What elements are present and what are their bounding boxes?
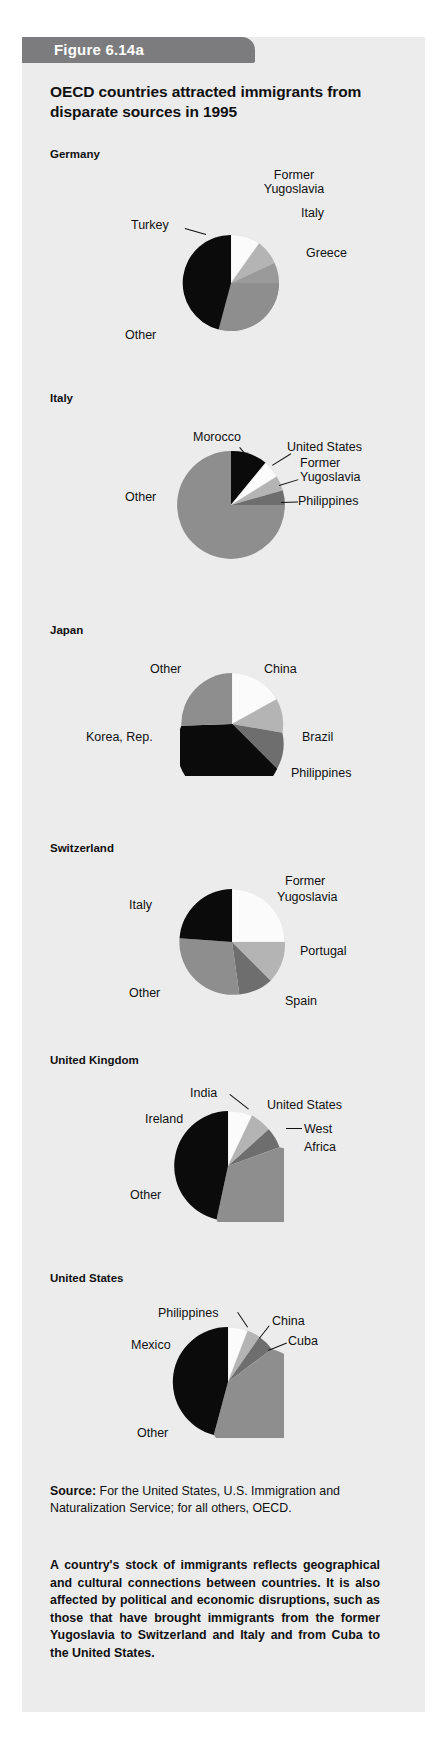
figure-caption: A country's stock of immigrants reflects…	[50, 1557, 380, 1662]
label-japan-brazil: Brazil	[302, 730, 333, 744]
pie-svg-italy	[176, 450, 286, 560]
label-germany-yugoslavia: Yugoslavia	[249, 182, 339, 196]
figure-number-label: Figure 6.14a	[54, 41, 144, 58]
source-note: Source: For the United States, U.S. Immi…	[50, 1483, 380, 1517]
label-switzerland-other: Other	[129, 986, 160, 1000]
label-uk-ireland: Ireland	[145, 1112, 183, 1126]
page-title: OECD countries attracted immigrants from…	[50, 82, 390, 122]
label-switzerland-spain: Spain	[285, 994, 317, 1008]
pie-svg-germany	[182, 234, 280, 332]
label-switzerland-italy: Italy	[129, 898, 152, 912]
slice-italy	[180, 889, 232, 942]
label-japan-philippines: Philippines	[291, 766, 351, 780]
figure-page: Figure 6.14a OECD countries attracted im…	[0, 0, 447, 1752]
pie-chart-switzerland	[178, 888, 286, 996]
label-uk-africa: Africa	[304, 1140, 336, 1154]
label-us-china: China	[272, 1314, 305, 1328]
chart-title-italy: Italy	[50, 392, 73, 404]
label-germany-greece: Greece	[306, 246, 347, 260]
label-italy-philippines: Philippines	[298, 494, 358, 508]
source-label: Source:	[50, 1484, 96, 1498]
label-japan-other: Other	[150, 662, 181, 676]
pie-svg-switzerland	[178, 888, 286, 996]
label-italy-yugoslavia: Yugoslavia	[300, 470, 360, 484]
chart-title-germany: Germany	[50, 148, 100, 160]
label-uk-west: West	[304, 1122, 332, 1136]
label-italy-united-states: United States	[287, 440, 362, 454]
label-us-other: Other	[137, 1426, 168, 1440]
figure-number-tab: Figure 6.14a	[22, 37, 255, 63]
label-japan-korea: Korea, Rep.	[86, 730, 153, 744]
label-italy-former: Former	[300, 456, 340, 470]
chart-title-uk: United Kingdom	[50, 1054, 139, 1066]
leader-uk-west-africa	[286, 1128, 302, 1129]
label-germany-other: Other	[125, 328, 156, 342]
pie-chart-uk	[172, 1110, 284, 1222]
chart-title-us: United States	[50, 1272, 124, 1284]
label-uk-other: Other	[130, 1188, 161, 1202]
label-us-cuba: Cuba	[288, 1334, 318, 1348]
label-us-philippines: Philippines	[158, 1306, 218, 1320]
label-japan-china: China	[264, 662, 297, 676]
pie-svg-japan	[180, 672, 284, 776]
label-switzerland-portugal: Portugal	[300, 944, 347, 958]
chart-title-switzerland: Switzerland	[50, 842, 114, 854]
label-uk-india: India	[190, 1086, 217, 1100]
pie-chart-us	[172, 1326, 284, 1438]
pie-chart-germany	[182, 234, 280, 332]
slice-other	[181, 673, 232, 726]
label-us-mexico: Mexico	[131, 1338, 171, 1352]
slice-other	[179, 938, 239, 995]
pie-chart-japan	[180, 672, 284, 776]
label-germany-italy: Italy	[301, 206, 324, 220]
label-italy-morocco: Morocco	[193, 430, 241, 444]
label-switzerland-former: Former	[285, 874, 325, 888]
chart-title-japan: Japan	[50, 624, 83, 636]
label-switzerland-yugoslavia: Yugoslavia	[277, 890, 337, 904]
pie-chart-italy	[176, 450, 286, 560]
pie-svg-uk	[172, 1110, 284, 1222]
label-germany-former: Former	[249, 168, 339, 182]
slice-ireland	[174, 1111, 228, 1219]
label-germany-turkey: Turkey	[131, 218, 169, 232]
label-italy-other: Other	[125, 490, 156, 504]
pie-svg-us	[172, 1326, 284, 1438]
label-uk-united-states: United States	[267, 1098, 342, 1112]
